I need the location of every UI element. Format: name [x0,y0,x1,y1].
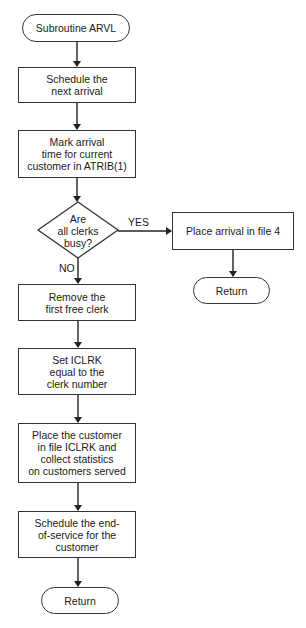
step-label: Mark arrival time for current customer i… [27,136,127,172]
step-label: Remove the first free clerk [45,291,108,315]
return-label: Return [216,285,248,297]
return-label: Return [64,595,96,607]
step-label: Place arrival in file 4 [186,225,280,237]
return-terminator-yes: Return [193,277,270,304]
step-set-iclrk: Set ICLRK equal to the clerk number [18,348,136,395]
step-schedule-end-of-service: Schedule the end- of-service for the cus… [18,511,136,558]
step-mark-arrival-time: Mark arrival time for current customer i… [18,130,136,178]
step-place-customer-collect-stats: Place the customer in file ICLRK and col… [18,423,136,483]
step-label: Place the customer in file ICLRK and col… [28,429,125,477]
step-remove-free-clerk: Remove the first free clerk [18,284,136,321]
start-terminator: Subroutine ARVL [22,14,130,42]
step-label: Set ICLRK equal to the clerk number [47,354,108,390]
step-schedule-next-arrival: Schedule the next arrival [18,67,136,103]
step-label: Schedule the end- of-service for the cus… [34,517,119,553]
start-label: Subroutine ARVL [36,22,116,34]
step-place-arrival-file4: Place arrival in file 4 [172,212,294,250]
step-label: Schedule the next arrival [46,73,107,97]
no-label: NO [59,262,75,274]
return-terminator-no: Return [41,587,119,614]
yes-label: YES [128,216,149,228]
decision-label: Are all clerks busy? [48,212,108,250]
